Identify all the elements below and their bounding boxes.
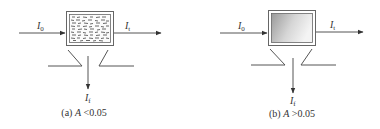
scattered-intensity-label: If: [290, 96, 296, 108]
sample-cell-absorbing: [272, 14, 313, 43]
incident-intensity-label: I0: [37, 21, 44, 33]
panel-b-caption: (b) A >0.05: [269, 108, 315, 119]
diagram-canvas: [0, 0, 380, 129]
transmitted-intensity-label: It: [125, 21, 130, 33]
incident-intensity-label: I0: [238, 21, 245, 33]
transmitted-intensity-label: It: [330, 20, 335, 32]
detector-funnel: [48, 50, 134, 66]
panel-a-caption: (a) A <0.05: [61, 107, 106, 118]
scattered-intensity-label: If: [85, 93, 91, 105]
